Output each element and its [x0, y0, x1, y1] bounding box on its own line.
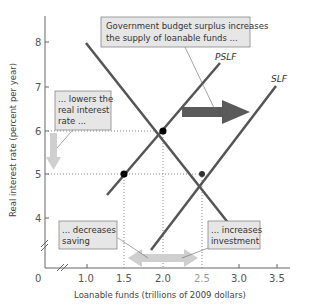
y-tick-4: 4 [35, 213, 41, 224]
y-tick-5: 5 [35, 169, 41, 180]
y-axis-title: Real interest rate (percent per year) [8, 63, 18, 217]
saving-point [121, 171, 128, 178]
interest-rate-down-arrow [46, 133, 61, 170]
lowers-text-line3: rate ... [58, 116, 86, 126]
slf-label: SLF [271, 74, 288, 84]
y-tick-6: 6 [35, 126, 41, 137]
lowers-text-line2: real interest [58, 105, 110, 115]
lowers-rate-annotation-box: ... lowers the real interest rate ... [55, 91, 113, 130]
lowers-text-line1: ... lowers the [58, 94, 113, 104]
y-tick-7: 7 [35, 82, 41, 93]
saving-text-line1: ... decreases [62, 225, 117, 235]
y-tick-8: 8 [35, 37, 41, 48]
x-axis-title: Loanable funds (trillions of 2009 dollar… [74, 290, 246, 300]
surplus-text-line2: the supply of loanable funds ... [106, 33, 238, 43]
invest-text-line2: investment [211, 236, 260, 246]
supply-shift-arrow [182, 100, 250, 124]
surplus-annotation-box: Government budget surplus increases the … [101, 17, 269, 47]
loanable-funds-chart: 8 7 6 5 4 0 1.0 1.5 2.0 2.5 3.0 3.5 Loan… [0, 0, 309, 306]
x-tick-1.0: 1.0 [78, 273, 94, 284]
invest-text-line1: ... increases [211, 225, 263, 235]
surplus-text-line1: Government budget surplus increases [106, 21, 269, 31]
decreases-saving-annotation-box: ... decreases saving [59, 221, 117, 249]
pslf-label: PSLF [215, 52, 237, 62]
x-tick-2.5: 2.5 [194, 273, 210, 284]
initial-equilibrium-point [160, 128, 167, 135]
x-ticks [87, 264, 277, 268]
y-ticks [45, 42, 49, 218]
dlf-curve [86, 43, 237, 234]
x-tick-origin: 0 [35, 273, 41, 284]
x-tick-3.5: 3.5 [269, 273, 285, 284]
saving-text-line2: saving [62, 236, 90, 246]
x-tick-2.0: 2.0 [155, 273, 171, 284]
x-tick-3.0: 3.0 [231, 273, 247, 284]
x-tick-1.5: 1.5 [116, 273, 132, 284]
increases-investment-annotation-box: ... increases investment [208, 221, 263, 249]
new-equilibrium-point [199, 171, 205, 177]
